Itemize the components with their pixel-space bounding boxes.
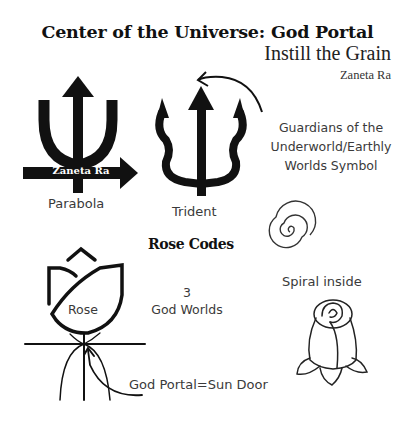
rose-label: Rose (68, 302, 98, 317)
rose-portal-icon (0, 0, 415, 427)
god-portal-label: God Portal=Sun Door (129, 377, 268, 392)
